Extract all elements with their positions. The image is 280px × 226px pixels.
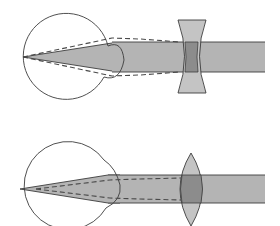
convex-lens-overlap [181,175,203,203]
myopia-panel [23,13,265,99]
eye-lens-diagram [0,0,280,226]
diagram-canvas [0,0,280,226]
hyperopia-panel [20,142,265,226]
concave-lens-overlap [185,42,198,72]
light-cone-bottom [20,175,120,203]
